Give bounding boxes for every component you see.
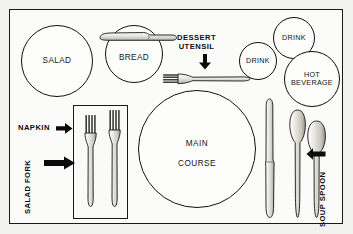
diagram-frame: SALAD BREAD [9,9,343,224]
callout-napkin: NAPKIN [18,123,50,132]
salad-plate: SALAD [21,25,93,97]
callout-salad-fork: SALAD FORK [23,160,32,214]
hot-beverage-line2: BEVERAGE [291,78,333,87]
arrow-right-icon-salad-fork [44,156,76,170]
drink-glass-small-label: DRINK [246,57,270,65]
arrow-right-icon-napkin [56,123,73,134]
arrow-down-icon [198,54,212,70]
main-course-plate: MAIN COURSE [138,90,256,208]
teaspoon-icon [288,109,308,220]
callout-soup-spoon: SOUP SPOON [318,172,327,227]
callout-salad-fork-label: SALAD FORK [23,160,32,214]
callout-dessert-utensil-line1: DESSERT [177,33,216,42]
main-course-line2: COURSE [178,159,216,168]
callout-dessert-utensil-line2: UTENSIL [179,42,215,51]
dessert-fork-icon [162,71,252,87]
main-course-label: MAIN COURSE [178,129,216,170]
hot-beverage-label: HOT BEVERAGE [291,71,333,88]
callout-dessert-utensil: DESSERT UTENSIL [177,33,216,52]
dinner-knife-icon [262,98,278,220]
bread-plate-label: BREAD [119,53,149,62]
butter-knife-icon [98,30,178,44]
place-setting-diagram: SALAD BREAD [0,0,353,234]
salad-plate-label: SALAD [43,56,72,65]
dinner-fork-icon [106,109,124,212]
salad-fork-icon [82,114,100,212]
drink-glass-large-label: DRINK [282,34,306,42]
callout-soup-spoon-label: SOUP SPOON [318,172,327,227]
main-course-line1: MAIN [186,139,208,148]
hot-beverage-cup: HOT BEVERAGE [284,51,340,107]
callout-napkin-label: NAPKIN [18,123,50,132]
drink-glass-small: DRINK [239,42,277,80]
arrow-left-icon-soup-spoon [306,148,326,160]
